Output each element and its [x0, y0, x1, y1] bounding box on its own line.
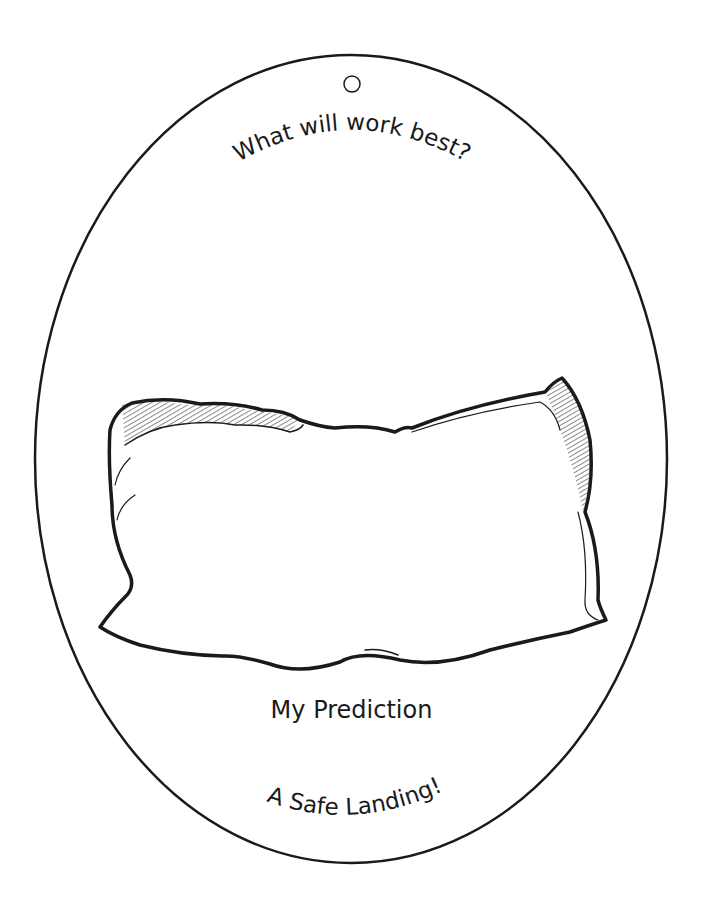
- prediction-label: My Prediction: [0, 696, 703, 724]
- ornament-worksheet: What will work best? A Safe Landing!: [0, 0, 703, 900]
- worksheet-artwork: What will work best? A Safe Landing!: [0, 0, 703, 900]
